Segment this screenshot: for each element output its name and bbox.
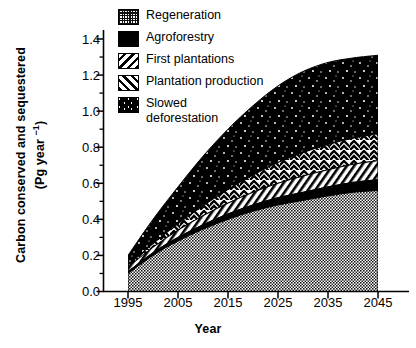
legend-label: Agroforestry [146, 30, 214, 45]
y-tick-label: 1.2 [66, 69, 100, 82]
x-axis-title: Year [0, 322, 416, 336]
legend-swatch-diagonal-hatch-icon [118, 75, 139, 91]
x-tick-label: 2025 [253, 296, 303, 309]
y-axis-title-line2-pre: (Pg year [34, 136, 48, 190]
y-tick-label: 0.0 [66, 285, 100, 298]
area-band-agroforestry [128, 180, 378, 274]
legend-swatch-chevron-hatch-icon [118, 53, 139, 69]
area-band-plantation-production [128, 161, 378, 272]
y-tick-label: 1.0 [66, 105, 100, 118]
x-tick-label: 1995 [103, 296, 153, 309]
legend-swatch-solid-black-icon [118, 31, 139, 47]
legend-swatch-fine-dotted-icon [118, 9, 139, 25]
y-tick-label: 0.2 [66, 249, 100, 262]
legend-item-slowed-deforestation: Slowed deforestation [118, 96, 328, 128]
y-axis-title-line1: Carbon conserved and sequestered [14, 47, 28, 263]
y-tick-label: 0.6 [66, 177, 100, 190]
legend-label: Regeneration [146, 8, 221, 23]
x-tick-label: 2015 [203, 296, 253, 309]
x-tick-label: 2035 [303, 296, 353, 309]
area-band-first-plantations [128, 134, 378, 267]
area-band-regeneration [128, 191, 378, 292]
figure-carbon-stacked-area: Carbon conserved and sequestered (Pg yea… [0, 0, 416, 348]
legend-label: First plantations [146, 52, 234, 67]
x-tick-label: 2005 [153, 296, 203, 309]
y-tick-label: 1.4 [66, 33, 100, 46]
y-tick-label: 0.8 [66, 141, 100, 154]
x-tick-label: 2045 [353, 296, 403, 309]
legend-label: Slowed deforestation [146, 96, 218, 126]
legend-item-plantation-production: Plantation production [118, 74, 328, 95]
y-axis-title-line2-post: ) [34, 121, 48, 125]
legend-item-regeneration: Regeneration [118, 8, 328, 29]
legend-item-first-plantations: First plantations [118, 52, 328, 73]
legend-label: Plantation production [146, 74, 263, 89]
legend-item-agroforestry: Agroforestry [118, 30, 328, 51]
y-axis-title-exponent: −1 [31, 125, 41, 135]
chart-legend: Regeneration Agroforestry First plantati… [118, 8, 328, 129]
y-tick-label-group: 1.4 1.2 1.0 0.8 0.6 0.4 0.2 0.0 [62, 0, 100, 348]
legend-swatch-black-speckled-icon [118, 97, 139, 113]
y-axis-title: Carbon conserved and sequestered (Pg yea… [0, 0, 62, 310]
y-tick-label: 0.4 [66, 213, 100, 226]
